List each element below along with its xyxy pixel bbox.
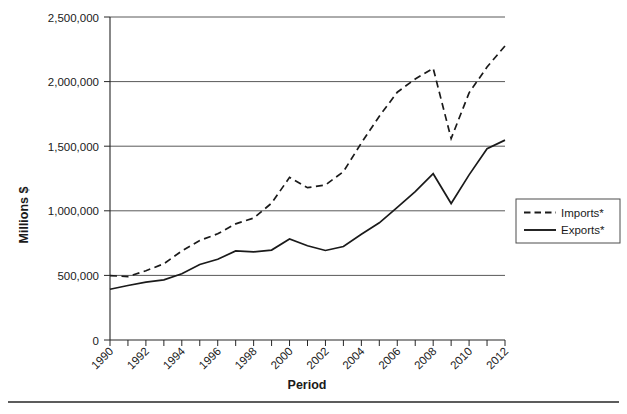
y-tick-label: 500,000 <box>57 270 99 282</box>
legend-label: Imports* <box>561 207 604 219</box>
y-tick-label: 0 <box>93 335 99 347</box>
x-axis-title: Period <box>288 378 327 392</box>
chart-legend: Imports* Exports* <box>516 199 620 243</box>
chart-figure: 2,500,000 2,000,000 1,500,000 1,000,000 … <box>0 0 627 414</box>
y-tick-label: 1,500,000 <box>48 141 99 153</box>
y-tick-label: 2,000,000 <box>48 76 99 88</box>
y-axis-title: Millions $ <box>17 186 31 243</box>
y-tick-label: 1,000,000 <box>48 205 99 217</box>
y-tick-label: 2,500,000 <box>48 12 99 24</box>
legend-label: Exports* <box>561 224 605 236</box>
line-chart: 2,500,000 2,000,000 1,500,000 1,000,000 … <box>0 0 627 414</box>
